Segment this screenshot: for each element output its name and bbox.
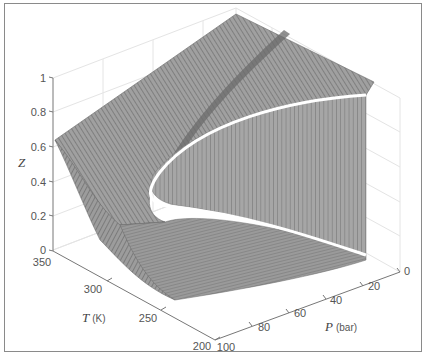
svg-text:0: 0: [404, 265, 410, 277]
svg-text:80: 80: [258, 321, 270, 333]
svg-text:0.4: 0.4: [31, 176, 46, 188]
surface-plot: 1 0.8 0.6 0.4 0.2 0 Z 350 300 250 200 T(…: [0, 0, 427, 358]
t-axis-label: T(K): [82, 310, 106, 325]
svg-text:0: 0: [40, 244, 46, 256]
z-axis-label: Z: [18, 155, 26, 170]
p-axis-label: P(bar): [324, 319, 357, 334]
svg-text:300: 300: [84, 283, 102, 295]
svg-text:0.6: 0.6: [31, 141, 46, 153]
svg-text:20: 20: [368, 280, 380, 292]
svg-text:200: 200: [193, 340, 211, 352]
svg-text:100: 100: [217, 341, 235, 353]
svg-text:350: 350: [33, 256, 51, 268]
z-axis-ticks: 1 0.8 0.6 0.4 0.2 0: [31, 72, 46, 256]
svg-text:0.8: 0.8: [31, 106, 46, 118]
svg-text:1: 1: [40, 72, 46, 84]
svg-text:250: 250: [139, 312, 157, 324]
svg-text:0.2: 0.2: [31, 210, 46, 222]
svg-text:60: 60: [294, 307, 306, 319]
svg-text:40: 40: [330, 294, 342, 306]
